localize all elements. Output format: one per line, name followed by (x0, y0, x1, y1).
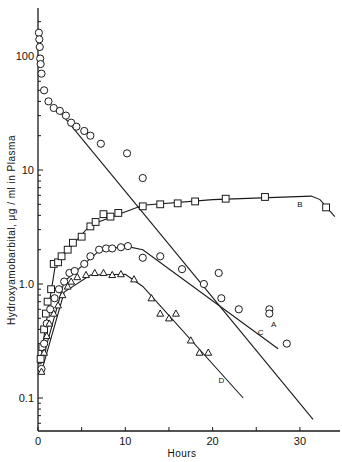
point-a (73, 123, 80, 130)
axes (38, 8, 340, 431)
x-axis-title: Hours (167, 448, 196, 459)
point-c (55, 286, 62, 293)
point-a (56, 107, 63, 114)
point-c (87, 253, 94, 260)
point-c (124, 243, 131, 250)
point-c (218, 295, 225, 302)
point-d (118, 271, 125, 277)
point-a (38, 70, 45, 77)
point-d (157, 310, 164, 316)
point-b (157, 201, 164, 208)
point-b (48, 286, 55, 293)
point-c (117, 244, 124, 251)
point-a (37, 60, 44, 67)
point-d (205, 349, 212, 355)
point-c (51, 295, 58, 302)
point-b (37, 356, 44, 363)
point-a (45, 98, 52, 105)
point-b (107, 213, 114, 220)
point-b (58, 253, 65, 260)
point-c (109, 245, 116, 252)
point-d (91, 269, 98, 275)
point-d (173, 310, 180, 316)
point-b (222, 195, 229, 202)
y-tick-label: 100 (16, 50, 34, 62)
point-a (62, 112, 69, 119)
x-tick-label: 0 (35, 435, 41, 447)
point-a (81, 127, 88, 134)
point-b (262, 194, 269, 201)
x-tick-label: 30 (294, 435, 306, 447)
point-c (157, 253, 164, 260)
curve-label-d: D (218, 376, 224, 385)
point-d (83, 271, 90, 277)
y-tick-label: 0.1 (19, 392, 34, 404)
x-tick-label: 20 (206, 435, 218, 447)
y-tick-label: 1.0 (19, 278, 34, 290)
point-b (92, 219, 99, 226)
curve-label-c: C (258, 328, 264, 337)
point-c (139, 254, 146, 261)
point-b (192, 198, 199, 205)
point-a (87, 132, 94, 139)
x-tick-label: 10 (119, 435, 131, 447)
labels: 100101.00.10102030HoursHydroxyamobarbita… (6, 50, 306, 459)
point-b (70, 239, 77, 246)
curve-label-b: B (297, 200, 302, 209)
y-axis-title: Hydroxyamobarbital, μg / ml in Plasma (6, 135, 17, 325)
point-b (115, 210, 122, 217)
point-c (200, 280, 207, 287)
y-tick-label: 10 (22, 164, 34, 176)
point-a (35, 29, 42, 36)
point-b (100, 211, 107, 218)
point-a (41, 87, 48, 94)
point-c (283, 340, 290, 347)
point-c (81, 260, 88, 267)
point-b (64, 246, 71, 253)
point-b (139, 203, 146, 210)
point-a (36, 43, 43, 50)
fit-line-d (42, 274, 244, 398)
fit-line-a (56, 107, 314, 420)
point-d (68, 278, 75, 284)
chart: 100101.00.10102030HoursHydroxyamobarbita… (0, 0, 342, 462)
point-b (323, 204, 330, 211)
point-a (36, 36, 43, 43)
point-c (178, 266, 185, 273)
point-a (123, 150, 130, 157)
point-a (215, 269, 222, 276)
point-b (44, 298, 51, 305)
point-d (148, 295, 155, 301)
point-c (266, 310, 273, 317)
point-c (96, 246, 103, 253)
point-c (41, 340, 48, 347)
point-b (78, 233, 85, 240)
point-a (97, 140, 104, 147)
point-b (174, 200, 181, 207)
point-a (139, 174, 146, 181)
point-c (235, 306, 242, 313)
curve-label-a: A (271, 320, 277, 329)
point-d (100, 269, 107, 275)
